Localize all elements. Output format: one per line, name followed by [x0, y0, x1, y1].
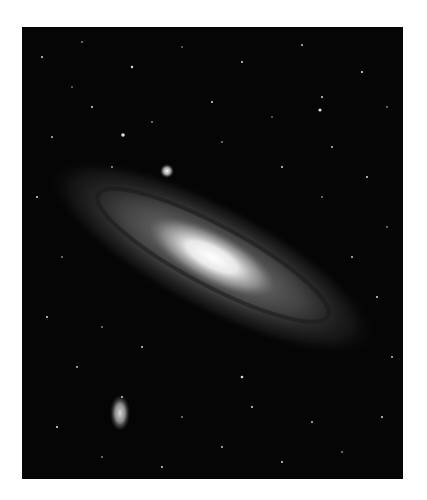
galaxy-photo: [22, 27, 403, 479]
galaxy-image: [22, 27, 403, 479]
